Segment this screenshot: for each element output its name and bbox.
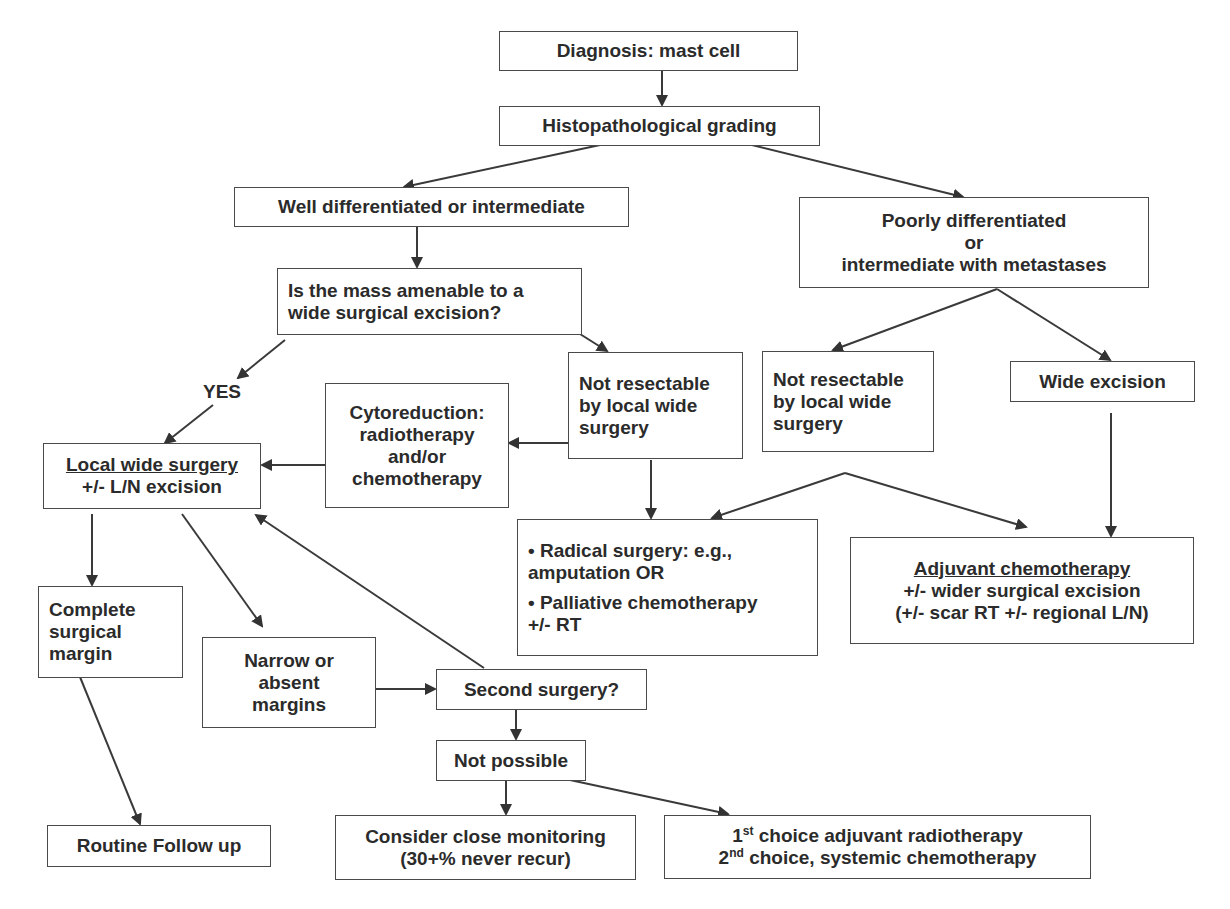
- edge-poorly-wide: [997, 289, 1110, 360]
- node-text: Complete: [49, 599, 136, 621]
- bullet-text: Radical surgery: e.g.,: [540, 540, 732, 561]
- choice-line-1: 1st choice adjuvant radiotherapy: [732, 825, 1023, 847]
- edge-complete-routine: [80, 677, 140, 824]
- node-treatment-choices: 1st choice adjuvant radiotherapy 2nd cho…: [664, 815, 1091, 879]
- ordinal-number: 2: [719, 847, 730, 868]
- choice-text: choice adjuvant radiotherapy: [754, 825, 1023, 846]
- node-text: surgical: [49, 621, 122, 643]
- node-text: (+/- scar RT +/- regional L/N): [895, 602, 1148, 624]
- node-adjuvant-chemotherapy: Adjuvant chemotherapy +/- wider surgical…: [850, 537, 1194, 644]
- node-close-monitoring: Consider close monitoring (30+% never re…: [335, 815, 636, 880]
- choice-line-2: 2nd choice, systemic chemotherapy: [719, 847, 1037, 869]
- node-text: margin: [49, 643, 112, 665]
- node-text: absent: [258, 672, 319, 694]
- ordinal-number: 1: [732, 825, 743, 846]
- node-well-differentiated: Well differentiated or intermediate: [234, 187, 629, 227]
- node-text: wide surgical excision?: [288, 302, 501, 324]
- node-text: surgery: [773, 413, 843, 435]
- edge-grading-poorly: [752, 145, 963, 197]
- node-text: Consider close monitoring: [365, 826, 606, 848]
- node-not-resectable-1: Not resectable by local wide surgery: [568, 352, 743, 459]
- node-text: Diagnosis: mast cell: [557, 40, 741, 62]
- node-text: Routine Follow up: [77, 835, 242, 857]
- node-title: Adjuvant chemotherapy: [914, 558, 1130, 580]
- node-text: +/- wider surgical excision: [903, 580, 1140, 602]
- node-text: chemotherapy: [352, 468, 482, 490]
- node-histopathological-grading: Histopathological grading: [499, 106, 820, 146]
- node-routine-follow-up: Routine Follow up: [47, 825, 271, 867]
- node-text: intermediate with metastases: [841, 254, 1106, 276]
- node-wide-excision: Wide excision: [1010, 361, 1195, 402]
- edge-notres2-adjuvant: [845, 473, 1026, 527]
- edge-notpossible-choices: [570, 780, 728, 814]
- bullet-text: Palliative chemotherapy: [540, 592, 758, 613]
- node-text: Not resectable: [579, 373, 710, 395]
- node-text: margins: [252, 694, 326, 716]
- node-text: +/- L/N excision: [82, 476, 222, 498]
- node-text: radiotherapy: [359, 424, 474, 446]
- node-complete-margin: Complete surgical margin: [38, 586, 183, 678]
- node-text: Not resectable: [773, 369, 904, 391]
- node-second-surgery: Second surgery?: [436, 669, 647, 710]
- node-amenable-question: Is the mass amenable to a wide surgical …: [277, 268, 582, 335]
- node-text: by local wide: [579, 395, 697, 417]
- node-diagnosis: Diagnosis: mast cell: [499, 31, 798, 71]
- node-not-resectable-2: Not resectable by local wide surgery: [762, 351, 934, 452]
- node-text: Second surgery?: [464, 679, 619, 701]
- node-cytoreduction: Cytoreduction: radiotherapy and/or chemo…: [325, 383, 509, 508]
- node-poorly-differentiated: Poorly differentiated or intermediate wi…: [799, 197, 1149, 288]
- node-text: by local wide: [773, 391, 891, 413]
- node-text: Not possible: [454, 750, 568, 772]
- ordinal-suffix: st: [743, 824, 754, 838]
- node-text: (30+% never recur): [400, 848, 571, 870]
- node-text: Well differentiated or intermediate: [278, 196, 585, 218]
- edge-notres2-radical: [712, 473, 845, 518]
- edge-amenable-notres1: [580, 334, 607, 351]
- node-text: Wide excision: [1039, 371, 1166, 393]
- node-local-wide-surgery: Local wide surgery +/- L/N excision: [43, 443, 261, 509]
- edge-amenable-yes: [238, 340, 285, 378]
- node-text: surgery: [579, 417, 649, 439]
- node-text: Is the mass amenable to a: [288, 280, 524, 302]
- node-not-possible: Not possible: [436, 740, 586, 781]
- node-radical-palliative: • Radical surgery: e.g., amputation OR •…: [517, 519, 818, 656]
- node-title: Local wide surgery: [66, 454, 238, 476]
- bullet-item: • Radical surgery: e.g.,: [528, 540, 732, 562]
- bullet-item: • Palliative chemotherapy: [528, 592, 757, 614]
- node-text: Poorly differentiated: [882, 210, 1067, 232]
- bullet-continuation: amputation OR: [528, 562, 664, 584]
- node-text: and/or: [388, 446, 446, 468]
- ordinal-suffix: nd: [729, 846, 744, 860]
- edge-grading-well: [404, 145, 600, 187]
- choice-text: choice, systemic chemotherapy: [744, 847, 1037, 868]
- node-text: or: [965, 232, 984, 254]
- edge-label-yes: YES: [203, 381, 241, 403]
- node-narrow-margins: Narrow or absent margins: [202, 637, 376, 728]
- node-text: Cytoreduction:: [349, 402, 484, 424]
- edge-poorly-notres2: [833, 289, 997, 350]
- bullet-continuation: +/- RT: [528, 614, 581, 636]
- edge-yes-localwide: [165, 405, 213, 443]
- node-text: Narrow or: [244, 650, 334, 672]
- node-text: Histopathological grading: [542, 115, 776, 137]
- edge-localwide-narrow: [182, 514, 262, 626]
